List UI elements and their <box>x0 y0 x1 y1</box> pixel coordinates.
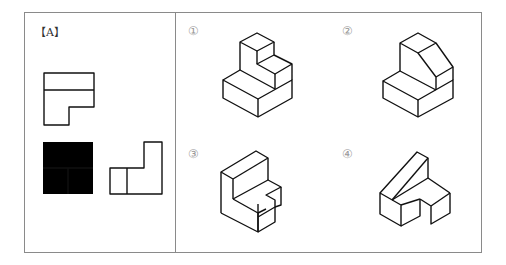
option-3-drawing[interactable] <box>221 151 281 232</box>
option-4-drawing[interactable] <box>380 152 450 226</box>
drawings <box>0 0 506 265</box>
option-1-drawing[interactable] <box>223 33 292 117</box>
front-view <box>43 142 93 194</box>
side-view <box>110 142 162 194</box>
option-2-drawing[interactable] <box>383 33 453 117</box>
top-view <box>44 73 94 125</box>
